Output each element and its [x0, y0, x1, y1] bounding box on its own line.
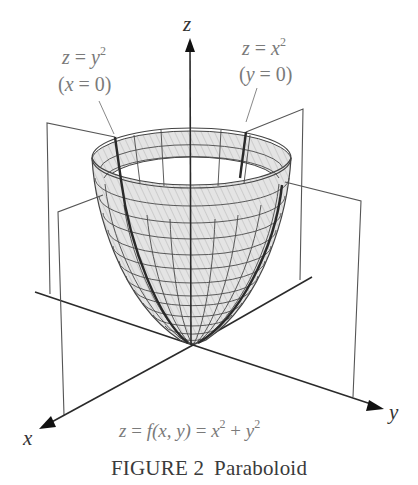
figure-caption: FIGURE 2Paraboloid: [0, 458, 418, 479]
equation-function: f(x, y): [147, 420, 191, 441]
leader-line-x0: [99, 101, 114, 134]
figure-number: FIGURE 2: [111, 456, 204, 480]
figure-title: Paraboloid: [214, 456, 307, 480]
equation-x-term: x: [211, 420, 219, 441]
condition-var: y: [246, 63, 255, 85]
front-axes: [48, 345, 374, 424]
paren-close: ): [105, 73, 112, 95]
equals-sign: =: [131, 420, 142, 441]
plane-x0-front-edge: [58, 195, 103, 415]
equation-lhs: z: [119, 420, 126, 441]
plus-sign: +: [230, 420, 241, 441]
equals-sign: =: [260, 63, 271, 85]
condition-value: 0: [95, 73, 105, 95]
equals-sign: =: [196, 420, 207, 441]
annotation-var: z: [62, 46, 70, 68]
equals-sign: =: [79, 73, 90, 95]
condition-value: 0: [276, 63, 286, 85]
y-axis-label: y: [389, 402, 398, 423]
annotation-z-equals-x-squared: z = x2: [242, 38, 286, 58]
equation-y-term: y: [246, 420, 254, 441]
x-axis-arrow-icon: [39, 416, 56, 429]
condition-var: x: [65, 73, 74, 95]
z-axis-arrow-icon: [185, 38, 195, 52]
equation-y-exponent: 2: [254, 417, 260, 431]
surface-equation: z = f(x, y) = x2 + y2: [119, 421, 260, 440]
equals-sign: =: [255, 37, 266, 59]
x-axis-line: [48, 345, 193, 424]
y-axis-line: [193, 345, 374, 405]
equation-x-exponent: 2: [220, 417, 226, 431]
z-axis-label: z: [183, 14, 191, 35]
leader-line-y0: [246, 88, 257, 122]
equals-sign: =: [75, 46, 86, 68]
annotation-rhs: x: [271, 37, 280, 59]
x-axis-label: x: [23, 428, 32, 449]
annotation-exponent: 2: [280, 35, 286, 49]
paren-close: ): [286, 63, 293, 85]
leader-lines: [99, 88, 257, 134]
plane-y0-front-edge: [285, 182, 361, 397]
annotation-condition-y0: (y = 0): [239, 64, 293, 84]
paren-open: (: [239, 63, 246, 85]
annotation-exponent: 2: [100, 44, 106, 58]
annotation-condition-x0: (x = 0): [58, 74, 112, 94]
annotation-z-equals-y-squared: z = y2: [62, 47, 106, 67]
paren-open: (: [58, 73, 65, 95]
y-axis-arrow-icon: [366, 400, 384, 411]
annotation-rhs: y: [91, 46, 100, 68]
annotation-var: z: [242, 37, 250, 59]
